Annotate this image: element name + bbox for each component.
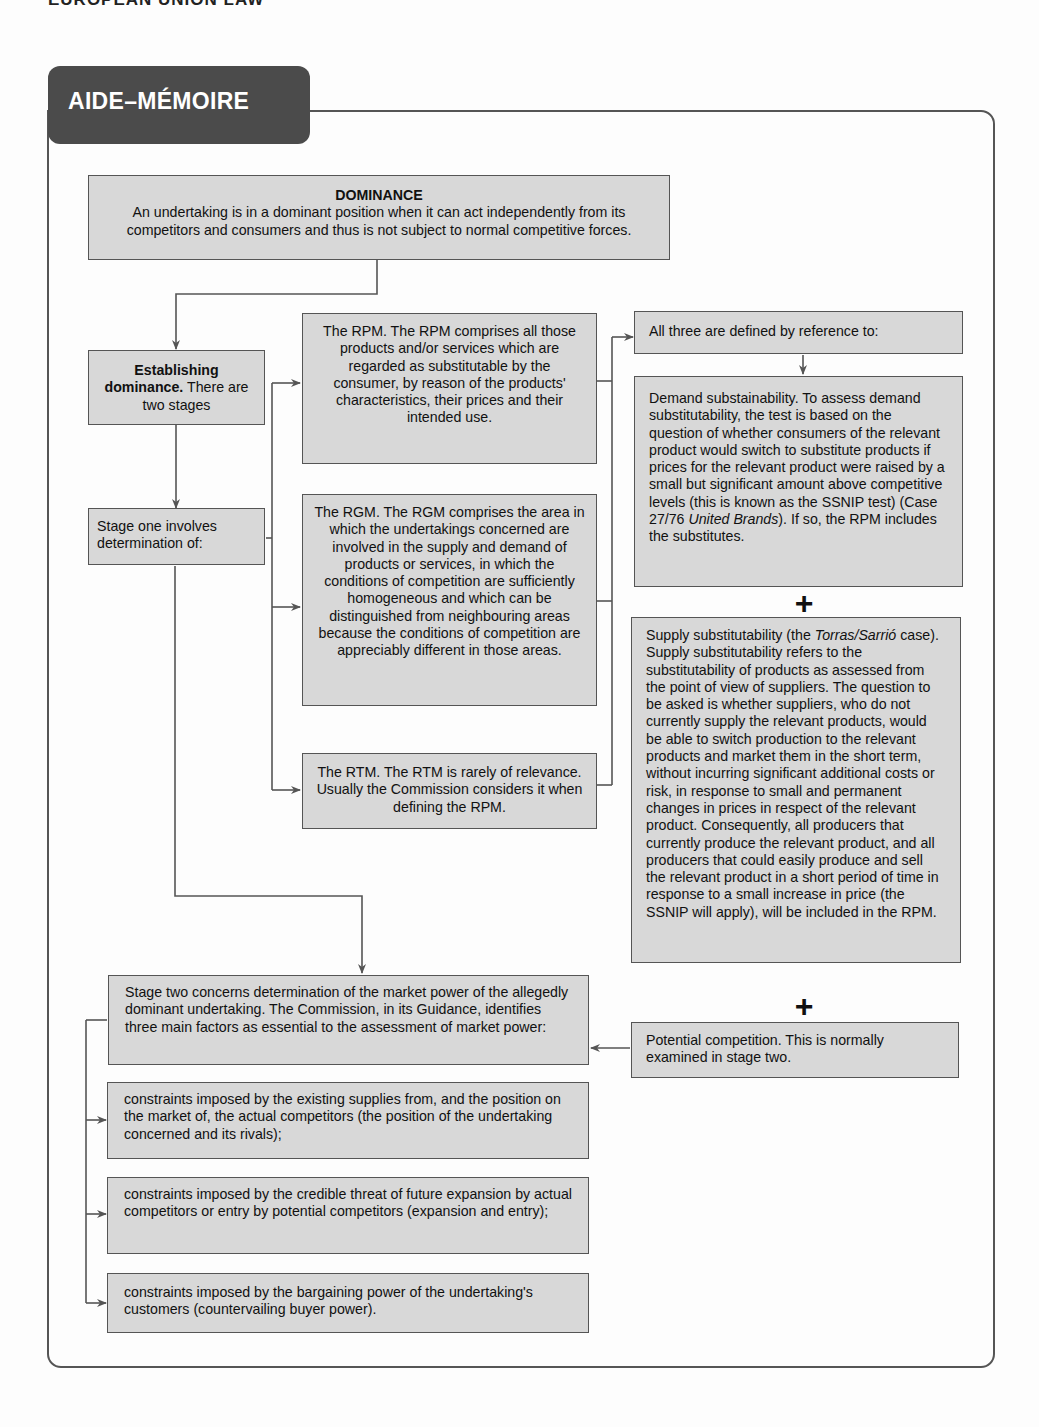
rtm-text: The RTM. The RTM is rarely of relevance.…	[317, 764, 583, 815]
running-head: EUROPEAN UNION LAW	[48, 0, 264, 10]
stage-two-box: Stage two concerns determination of the …	[108, 975, 589, 1065]
demand-text-a: Demand substainability. To assess demand…	[649, 390, 945, 527]
potential-competition-box: Potential competition. This is normally …	[631, 1022, 959, 1078]
factor-box-buyer-power: constraints imposed by the bargaining po…	[107, 1273, 589, 1333]
supply-case-name: Torras/Sarrió	[815, 627, 896, 643]
dominance-box: DOMINANCE An undertaking is in a dominan…	[88, 175, 670, 260]
rpm-text: The RPM. The RPM comprises all those pro…	[323, 323, 576, 425]
potential-text: Potential competition. This is normally …	[646, 1032, 884, 1065]
supply-substitutability-box: Supply substitutability (the Torras/Sarr…	[631, 617, 961, 963]
stage-one-box: Stage one involves determination of:	[88, 508, 265, 565]
header-title: AIDE–MÉMOIRE	[68, 88, 249, 114]
rpm-box: The RPM. The RPM comprises all those pro…	[302, 313, 597, 464]
factor-text: constraints imposed by the existing supp…	[124, 1091, 561, 1142]
factor-box-existing-competitors: constraints imposed by the existing supp…	[107, 1082, 589, 1159]
plus-icon: +	[789, 587, 819, 619]
all-three-text: All three are defined by reference to:	[649, 323, 879, 339]
stage-two-text: Stage two concerns determination of the …	[125, 984, 568, 1035]
supply-text-b: case). Supply substitutability refers to…	[646, 627, 939, 920]
factor-text: constraints imposed by the credible thre…	[124, 1186, 572, 1219]
demand-case-name: United Brands	[688, 511, 778, 527]
stage-one-text: Stage one involves determination of:	[97, 518, 217, 551]
establishing-dominance-box: Establishing dominance. There are two st…	[88, 350, 265, 425]
dominance-title: DOMINANCE	[99, 187, 659, 204]
aide-memoire-header: AIDE–MÉMOIRE	[48, 66, 310, 144]
plus-icon: +	[789, 990, 819, 1022]
supply-text-a: Supply substitutability (the	[646, 627, 815, 643]
rgm-box: The RGM. The RGM comprises the area in w…	[302, 494, 597, 706]
factor-text: constraints imposed by the bargaining po…	[124, 1284, 533, 1317]
rgm-text: The RGM. The RGM comprises the area in w…	[314, 504, 584, 658]
dominance-text: An undertaking is in a dominant position…	[99, 204, 659, 239]
demand-substitutability-box: Demand substainability. To assess demand…	[634, 376, 963, 587]
factor-box-expansion-entry: constraints imposed by the credible thre…	[107, 1177, 589, 1254]
rtm-box: The RTM. The RTM is rarely of relevance.…	[302, 753, 597, 829]
all-three-box: All three are defined by reference to:	[634, 311, 963, 354]
